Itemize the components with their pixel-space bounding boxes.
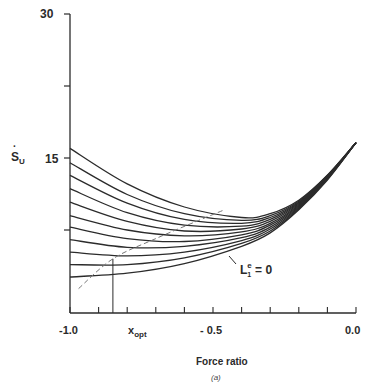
- x-axis-label: Force ratio: [196, 356, 248, 367]
- x-tick-label-neg05: - 0.5: [200, 324, 222, 336]
- series-curve-11: [70, 143, 356, 277]
- y-tick-label-30: 30: [40, 7, 53, 21]
- y-axis-label: · SU: [11, 150, 25, 164]
- series-curve-3: [70, 143, 356, 224]
- x-tick-label-xopt: xopt: [128, 324, 147, 336]
- series-curve-2: [70, 143, 356, 221]
- figure-caption: (a): [211, 373, 221, 382]
- y-tick-label-15: 15: [45, 152, 58, 166]
- x-tick-label-0: 0.0: [345, 324, 360, 336]
- series-curve-1: [70, 143, 356, 218]
- chart-plot-area: [0, 0, 376, 384]
- y-axis-label-dot: ·: [13, 141, 16, 152]
- x-tick-label-neg1: -1.0: [59, 324, 78, 336]
- annotation-leader-line: [229, 256, 236, 264]
- curve-annotation-label: L1e = 0: [240, 263, 272, 277]
